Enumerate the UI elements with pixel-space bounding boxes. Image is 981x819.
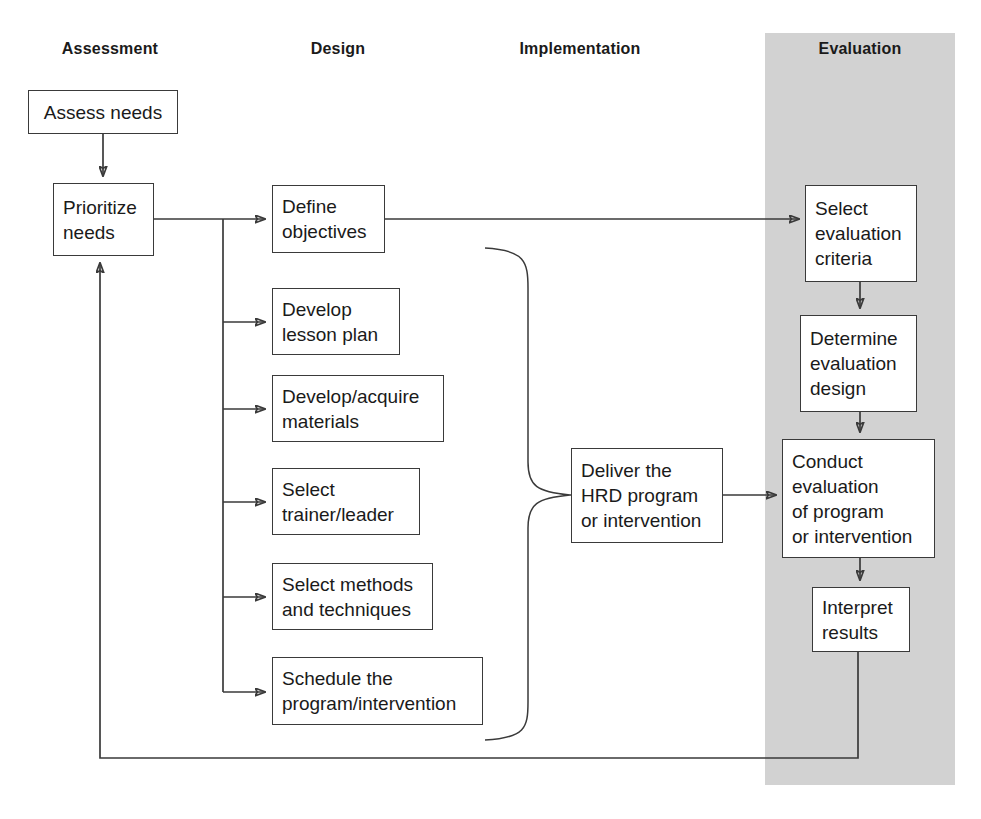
node-conduct-evaluation: Conductevaluationof programor interventi… (782, 439, 935, 558)
node-label-assess-needs: Assess needs (29, 100, 177, 125)
node-label-select-trainer: Selecttrainer/leader (273, 477, 419, 527)
phase-header-evaluation: Evaluation (819, 40, 902, 58)
node-label-conduct-evaluation: Conductevaluationof programor interventi… (783, 449, 934, 549)
node-interpret-results: Interpretresults (812, 587, 910, 652)
node-label-select-criteria: Selectevaluationcriteria (806, 196, 916, 271)
node-select-criteria: Selectevaluationcriteria (805, 185, 917, 282)
node-prioritize-needs: Prioritizeneeds (53, 183, 154, 256)
node-label-develop-materials: Develop/acquirematerials (273, 384, 443, 434)
design-gather-brace (485, 248, 570, 740)
node-label-interpret-results: Interpretresults (813, 595, 909, 645)
node-schedule-program: Schedule theprogram/intervention (272, 657, 483, 725)
phase-header-implementation: Implementation (519, 40, 640, 58)
node-assess-needs: Assess needs (28, 90, 178, 134)
node-define-objectives: Defineobjectives (272, 185, 385, 253)
node-determine-design: Determineevaluationdesign (800, 315, 917, 412)
node-develop-materials: Develop/acquirematerials (272, 375, 444, 442)
node-label-develop-lesson-plan: Developlesson plan (273, 297, 399, 347)
node-develop-lesson-plan: Developlesson plan (272, 288, 400, 355)
node-label-prioritize-needs: Prioritizeneeds (54, 195, 153, 245)
node-select-methods: Select methodsand techniques (272, 563, 433, 630)
node-label-determine-design: Determineevaluationdesign (801, 326, 916, 401)
phase-header-design: Design (311, 40, 366, 58)
node-label-select-methods: Select methodsand techniques (273, 572, 432, 622)
hrd-process-diagram: AssessmentDesignImplementationEvaluation… (0, 0, 981, 819)
node-label-schedule-program: Schedule theprogram/intervention (273, 666, 482, 716)
node-label-define-objectives: Defineobjectives (273, 194, 384, 244)
node-label-deliver-hrd-program: Deliver theHRD programor intervention (572, 458, 722, 533)
phase-header-assessment: Assessment (62, 40, 158, 58)
node-select-trainer: Selecttrainer/leader (272, 468, 420, 535)
node-deliver-hrd-program: Deliver theHRD programor intervention (571, 448, 723, 543)
